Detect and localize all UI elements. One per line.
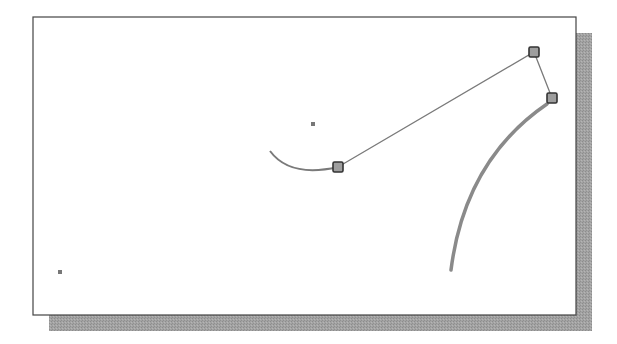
drawing-frame (33, 17, 576, 315)
grip-handle-icon[interactable] (333, 162, 343, 172)
center-point-icon (311, 122, 315, 126)
grip-handle-icon[interactable] (529, 47, 539, 57)
grip-handle-icon[interactable] (547, 93, 557, 103)
diagram-canvas (0, 0, 617, 344)
cad-drawing (0, 0, 617, 344)
point-marker-icon (58, 270, 62, 274)
